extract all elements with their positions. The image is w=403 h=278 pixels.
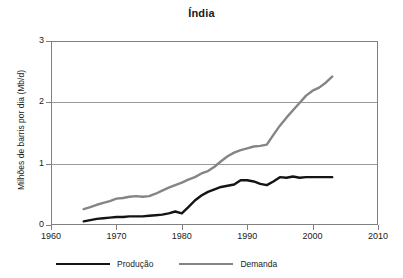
y-tick-label: 2 <box>18 96 44 106</box>
legend-item-producao: Produção <box>56 259 153 269</box>
y-axis-title: Milhões de barris por dia (Mb/d) <box>16 30 26 230</box>
legend-swatch-demanda <box>179 263 233 266</box>
chart-legend: Produção Demanda <box>51 255 378 273</box>
x-tick-label: 2010 <box>358 231 398 241</box>
series-line-demanda <box>84 77 333 209</box>
legend-swatch-producao <box>56 263 110 266</box>
x-tick-label: 1960 <box>31 231 71 241</box>
chart-title: Índia <box>0 7 403 19</box>
x-tick-mark <box>182 225 183 230</box>
legend-label-producao: Produção <box>117 259 153 269</box>
x-tick-mark <box>51 225 52 230</box>
x-tick-label: 1970 <box>96 231 136 241</box>
x-tick-label: 2000 <box>293 231 333 241</box>
plot-area <box>51 41 378 225</box>
x-tick-label: 1990 <box>227 231 267 241</box>
x-tick-mark <box>247 225 248 230</box>
y-tick-label: 1 <box>18 158 44 168</box>
chart-container: Índia Milhões de barris por dia (Mb/d) 0… <box>0 0 403 278</box>
y-tick-label: 3 <box>18 35 44 45</box>
x-tick-mark <box>313 225 314 230</box>
y-tick-label: 0 <box>18 219 44 229</box>
x-tick-mark <box>116 225 117 230</box>
x-tick-mark <box>378 225 379 230</box>
legend-item-demanda: Demanda <box>179 259 277 269</box>
series-lines <box>51 41 378 225</box>
legend-label-demanda: Demanda <box>240 259 277 269</box>
x-tick-label: 1980 <box>162 231 202 241</box>
